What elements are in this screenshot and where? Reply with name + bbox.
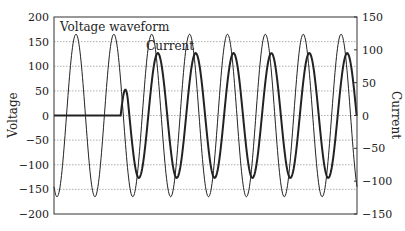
left-tick-label: 200: [28, 11, 49, 24]
right-tick-label: −150: [362, 208, 392, 221]
left-tick-label: 50: [35, 85, 49, 98]
right-tick-label: 50: [362, 77, 376, 90]
left-axis-label: Voltage: [6, 92, 20, 138]
left-tick-label: −200: [19, 208, 49, 221]
right-tick-label: −100: [362, 175, 392, 188]
right-axis-label: Current: [389, 91, 403, 139]
right-tick-label: 0: [362, 110, 369, 123]
current-line: [54, 53, 357, 178]
left-tick-label: 150: [28, 36, 49, 49]
right-tick-label: −50: [362, 142, 385, 155]
right-axis-ticks: 150100500−50−100−150: [354, 11, 392, 221]
current-annotation: Current: [146, 39, 194, 53]
right-tick-label: 100: [362, 44, 383, 57]
chart: 200150100500−50−100−150−200 150100500−50…: [0, 0, 405, 231]
left-tick-label: 100: [28, 60, 49, 73]
left-tick-label: −150: [19, 183, 49, 196]
right-tick-label: 150: [362, 11, 383, 24]
left-tick-label: −50: [26, 134, 49, 147]
left-tick-label: −100: [19, 159, 49, 172]
left-tick-label: 0: [42, 110, 49, 123]
plot-area: [54, 34, 357, 197]
left-axis-ticks: 200150100500−50−100−150−200: [19, 11, 49, 221]
voltage-waveform-annotation: Voltage waveform: [59, 20, 170, 34]
